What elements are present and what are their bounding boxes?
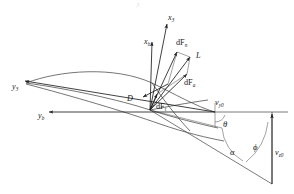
label-y3: y3 — [11, 82, 19, 92]
label-x3: x3 — [167, 13, 175, 23]
label-xb: xb — [143, 37, 151, 47]
label-L: L — [195, 51, 201, 60]
label-vy0: vy0 — [215, 98, 224, 108]
vector-group — [25, 24, 272, 184]
label-dFn: dFn — [176, 38, 188, 48]
label-D: D — [126, 94, 133, 103]
label-vz0: vz0 — [275, 148, 284, 158]
label-theta: θ — [223, 119, 228, 129]
label-alpha: α — [230, 147, 235, 157]
reference-plane — [150, 103, 288, 184]
parallelogram-edge-lower — [157, 74, 187, 94]
x3-axis-vector — [150, 24, 167, 110]
ghost-top-artifact: y — [136, 1, 140, 7]
parallelogram-edge-top — [177, 52, 190, 57]
figure-container: y — [0, 0, 294, 194]
label-yb: yb — [37, 111, 45, 121]
label-dFa: dFa — [184, 78, 196, 88]
label-phi: ϕ — [253, 142, 258, 152]
vector-diagram-svg: y — [0, 0, 294, 194]
